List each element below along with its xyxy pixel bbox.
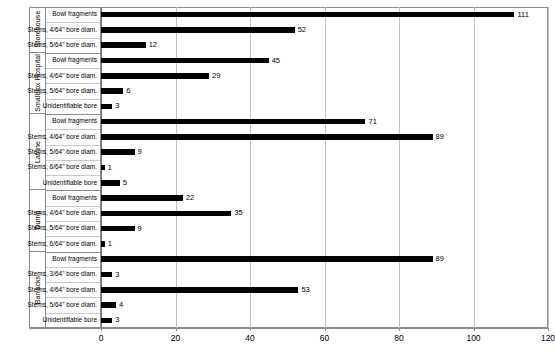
category-label: Stems, 4/64" bore diam.	[27, 134, 97, 141]
cut-off-title	[70, 0, 330, 4]
category-label: Bowl fragments	[52, 118, 97, 125]
plot-area: 111521245296371899152235918935343	[101, 7, 548, 328]
gridline-100	[474, 7, 475, 328]
category-label: Unidentifiable bore	[43, 317, 97, 324]
bar-value-label: 53	[301, 286, 309, 294]
category-label: Unidentifiable bore	[43, 180, 97, 187]
bar-value-label: 5	[123, 179, 127, 187]
category-label-row: Stems, 4/64" bore diam.	[46, 129, 100, 144]
category-label-row: Stems, 5/64" bore diam.	[46, 38, 100, 53]
bar	[101, 73, 209, 79]
x-tick-label: 60	[320, 333, 329, 343]
x-tick-20	[176, 328, 177, 331]
category-label-row: Stems, 4/64" bore diam.	[46, 206, 100, 221]
x-tick-label: 40	[245, 333, 254, 343]
group-label: Smallpox Hospital	[34, 54, 41, 112]
x-tick-40	[250, 328, 251, 331]
category-separator	[46, 175, 100, 176]
category-label-row: Stems, 4/64" bore diam.	[46, 282, 100, 297]
category-label: Stems, 4/64" bore diam.	[27, 287, 97, 294]
category-label-row: Stems, 5/64" bore diam.	[46, 297, 100, 312]
category-separator	[46, 22, 100, 23]
bar-value-label: 3	[115, 102, 119, 110]
bar	[101, 318, 112, 324]
category-label: Bowl fragments	[52, 57, 97, 64]
category-label: Stems, 5/64" bore diam.	[27, 88, 97, 95]
category-label-axis: Bowl fragmentsStems, 4/64" bore diam.Ste…	[45, 7, 101, 328]
bar-value-label: 29	[212, 72, 220, 80]
category-label-row: Bowl fragments	[46, 252, 100, 267]
bar-value-label: 3	[115, 316, 119, 324]
bar	[101, 241, 105, 247]
category-separator	[46, 221, 100, 222]
category-label: Stems, 6/64" bore diam.	[27, 164, 97, 171]
category-label-row: Stems, 4/64" bore diam.	[46, 68, 100, 83]
bar-value-label: 6	[126, 87, 130, 95]
category-separator	[46, 267, 100, 268]
category-separator	[46, 190, 100, 191]
category-separator	[46, 99, 100, 100]
category-label-row: Unidentifiable bore	[46, 99, 100, 114]
bar	[101, 195, 183, 201]
x-tick-label: 20	[171, 333, 180, 343]
bar	[101, 226, 135, 232]
category-label-row: Stems, 3/64" bore diam.	[46, 267, 100, 282]
bar-value-label: 52	[298, 26, 306, 34]
bar	[101, 272, 112, 278]
category-separator	[46, 129, 100, 130]
category-label: Stems, 4/64" bore diam.	[27, 73, 97, 80]
bar	[101, 165, 105, 171]
category-label: Bowl fragments	[52, 11, 97, 18]
category-label-row: Bowl fragments	[46, 53, 100, 68]
category-label: Stems, 4/64" bore diam.	[27, 27, 97, 34]
bar-value-label: 9	[138, 225, 142, 233]
category-separator	[46, 145, 100, 146]
bar	[101, 12, 514, 18]
bar-value-label: 71	[368, 118, 376, 126]
category-separator	[46, 68, 100, 69]
category-label-row: Stems, 6/64" bore diam.	[46, 236, 100, 251]
category-separator	[46, 38, 100, 39]
x-tick-120	[548, 328, 549, 331]
category-separator	[46, 282, 100, 283]
category-label: Stems, 5/64" bore diam.	[27, 42, 97, 49]
x-tick-label: 120	[541, 333, 555, 343]
category-label-row: Bowl fragments	[46, 114, 100, 129]
x-tick-label: 80	[394, 333, 403, 343]
x-tick-60	[325, 328, 326, 331]
bar	[101, 58, 269, 64]
category-separator	[46, 114, 100, 115]
bar-value-label: 1	[108, 164, 112, 172]
category-separator	[46, 297, 100, 298]
category-label-row: Stems, 6/64" bore diam.	[46, 160, 100, 175]
category-label: Stems, 6/64" bore diam.	[27, 241, 97, 248]
bar-value-label: 3	[115, 271, 119, 279]
category-separator	[46, 252, 100, 253]
bar-value-label: 12	[149, 41, 157, 49]
category-label: Stems, 5/64" bore diam.	[27, 225, 97, 232]
bar	[101, 27, 295, 33]
bar	[101, 104, 112, 110]
category-label-row: Stems, 5/64" bore diam.	[46, 221, 100, 236]
category-label: Unidentifiable bore	[43, 103, 97, 110]
bar-value-label: 22	[186, 194, 194, 202]
bar-value-label: 4	[119, 301, 123, 309]
category-label-row: Stems, 5/64" bore diam.	[46, 83, 100, 98]
x-tick-100	[474, 328, 475, 331]
bar	[101, 88, 123, 94]
gridline-20	[176, 7, 177, 328]
bar	[101, 302, 116, 308]
gridline-120	[548, 7, 549, 328]
x-axis-line	[29, 328, 548, 329]
bar	[101, 42, 146, 48]
gridline-60	[325, 7, 326, 328]
category-separator	[46, 313, 100, 314]
x-tick-label: 100	[466, 333, 480, 343]
category-label: Stems, 5/64" bore diam.	[27, 302, 97, 309]
category-label-row: Bowl fragments	[46, 7, 100, 22]
bar-value-label: 9	[138, 148, 142, 156]
bar	[101, 256, 433, 262]
category-label: Bowl fragments	[52, 195, 97, 202]
bar-value-label: 89	[436, 255, 444, 263]
bar-value-label: 1	[108, 240, 112, 248]
